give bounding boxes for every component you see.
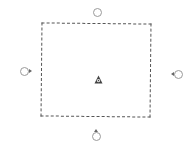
left-handle-pointer-icon <box>29 69 32 73</box>
editor-canvas[interactable] <box>0 0 191 152</box>
top-resize-handle[interactable] <box>93 8 102 17</box>
left-resize-handle[interactable] <box>20 67 29 76</box>
right-resize-handle[interactable] <box>174 70 183 79</box>
bottom-resize-handle[interactable] <box>92 132 101 141</box>
right-handle-pointer-icon <box>171 72 174 76</box>
anchor-pin-icon[interactable] <box>94 70 103 79</box>
bottom-handle-pointer-icon <box>94 129 98 132</box>
